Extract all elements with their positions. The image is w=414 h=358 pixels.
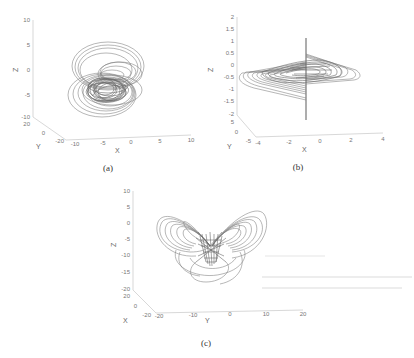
panel-c-z-ticks: 10 5 0 -5 -10 -15 -20: [121, 188, 130, 292]
svg-text:-10: -10: [71, 141, 80, 147]
panel-b-zlabel: Z: [207, 67, 214, 72]
bleed-through-line: [265, 255, 325, 257]
svg-text:-4: -4: [255, 140, 261, 146]
figure-canvas: 10 5 0 -5 -10 Z 20 0 -20 Y -10 -5 0 5 10…: [0, 0, 414, 358]
svg-text:2: 2: [231, 14, 235, 20]
bleed-through-line: [262, 287, 402, 289]
panel-b: 2 1.5 1 0.5 0 -0.5 -1 -1.5 -2 Z 5 0 -5 Y…: [207, 14, 385, 172]
svg-text:20: 20: [300, 311, 307, 317]
panel-a-xlabel: X: [115, 147, 120, 154]
svg-text:-1: -1: [229, 86, 235, 92]
panel-c-xlabel: Y: [205, 317, 210, 324]
panel-a-x-ticks: -10 -5 0 5 10: [71, 137, 195, 147]
panel-c-caption: (c): [201, 338, 211, 348]
svg-text:-5: -5: [125, 236, 131, 242]
panel-a-zlabel: Z: [12, 67, 19, 72]
svg-text:0.5: 0.5: [226, 50, 235, 56]
svg-text:-20: -20: [121, 286, 130, 292]
svg-text:10: 10: [188, 137, 195, 143]
panel-b-xlabel: X: [302, 146, 307, 153]
svg-text:0: 0: [27, 67, 31, 73]
svg-text:5: 5: [127, 204, 131, 210]
svg-text:0: 0: [127, 220, 131, 226]
panel-c-trajectory: [157, 211, 267, 284]
svg-text:1: 1: [231, 38, 235, 44]
panel-b-y-ticks: 5 0 -5: [231, 119, 252, 144]
svg-text:-5: -5: [25, 92, 31, 98]
svg-text:10: 10: [263, 311, 270, 317]
svg-text:-10: -10: [189, 312, 198, 318]
svg-text:-20: -20: [55, 138, 64, 144]
panel-a: 10 5 0 -5 -10 Z 20 0 -20 Y -10 -5 0 5 10…: [12, 17, 195, 173]
panel-b-trajectory: [239, 38, 360, 120]
svg-text:0: 0: [318, 138, 322, 144]
svg-text:5: 5: [27, 42, 31, 48]
svg-text:-2: -2: [286, 139, 292, 145]
svg-text:-2: -2: [229, 111, 235, 117]
svg-text:-10: -10: [121, 252, 130, 258]
svg-text:5: 5: [158, 138, 162, 144]
panel-c-x-ticks: -20 -10 0 10 20: [155, 311, 307, 319]
svg-text:0: 0: [129, 139, 133, 145]
svg-text:-20: -20: [155, 313, 164, 319]
svg-text:-1.5: -1.5: [224, 98, 235, 104]
svg-text:0: 0: [42, 130, 46, 136]
svg-text:0: 0: [134, 303, 138, 309]
panel-b-z-ticks: 2 1.5 1 0.5 0 -0.5 -1 -1.5 -2: [224, 14, 235, 117]
panel-b-caption: (b): [293, 162, 304, 172]
panel-b-x-ticks: -4 -2 0 2 4: [255, 136, 385, 146]
svg-text:5: 5: [231, 119, 235, 125]
svg-text:-5: -5: [246, 138, 252, 144]
svg-text:0: 0: [235, 129, 239, 135]
svg-text:20: 20: [123, 293, 130, 299]
bleed-through-line: [262, 276, 412, 278]
svg-text:-15: -15: [121, 269, 130, 275]
svg-text:-0.5: -0.5: [224, 74, 235, 80]
svg-text:0: 0: [228, 311, 232, 317]
panel-a-z-ticks: 10 5 0 -5 -10: [21, 17, 30, 120]
svg-text:0: 0: [231, 62, 235, 68]
svg-text:10: 10: [23, 17, 30, 23]
svg-text:-20: -20: [142, 312, 151, 318]
svg-text:-5: -5: [100, 140, 106, 146]
svg-text:4: 4: [381, 136, 385, 142]
panel-a-ylabel: Y: [36, 143, 41, 150]
svg-text:10: 10: [123, 188, 130, 194]
panel-b-ylabel: Y: [227, 143, 232, 150]
panel-c-ylabel: X: [123, 317, 128, 324]
svg-text:2: 2: [349, 137, 353, 143]
panel-c-zlabel: Z: [110, 242, 117, 247]
panel-c: 10 5 0 -5 -10 -15 -20 Z 20 0 -20 X -20 -…: [110, 188, 307, 348]
svg-text:-10: -10: [21, 114, 30, 120]
panel-a-caption: (a): [103, 163, 113, 173]
svg-text:20: 20: [23, 121, 30, 127]
panel-a-trajectory: [68, 42, 144, 117]
panel-c-y-ticks: 20 0 -20: [123, 293, 151, 318]
svg-text:1.5: 1.5: [226, 26, 235, 32]
